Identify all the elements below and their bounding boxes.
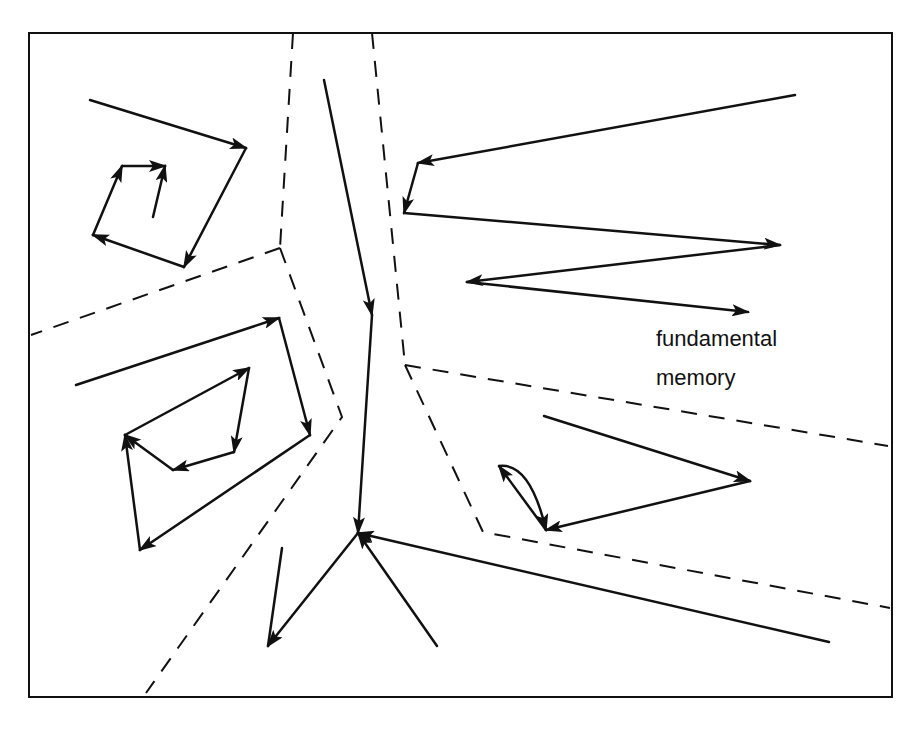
arrow-icon — [544, 416, 750, 481]
arrow-icon — [358, 315, 372, 533]
arrow-icon — [93, 166, 122, 235]
arrow-icon — [125, 435, 173, 470]
arrow-icon — [324, 80, 372, 315]
arrow-icon — [358, 533, 437, 646]
arrow-icon — [546, 481, 750, 530]
arrow-icon — [93, 235, 184, 267]
arrow-icon — [404, 213, 780, 245]
spiral-inner — [153, 166, 165, 217]
arrow-icon — [404, 163, 418, 213]
arrow-icon — [125, 435, 140, 550]
boundary-left-upper-diagonal — [31, 248, 280, 335]
boundary-right-lower — [405, 365, 890, 608]
diagram-frame — [29, 33, 892, 697]
state-trajectories — [76, 80, 829, 646]
arrow-icon — [125, 368, 249, 435]
spiral-outer — [90, 100, 246, 267]
arrow-icon — [140, 435, 310, 550]
fundamental-memory-label-line1: fundamental — [656, 326, 777, 352]
arrow-icon — [173, 452, 234, 470]
arrow-icon — [467, 282, 748, 312]
center-from-right — [358, 533, 829, 642]
arrow-icon — [234, 368, 249, 452]
fundamental-memory-label-line2: memory — [656, 365, 735, 391]
arrow-icon — [90, 100, 246, 148]
boundary-right-upper — [405, 365, 888, 446]
arrow-icon — [358, 533, 829, 642]
arrow-icon — [467, 245, 780, 282]
loop-outer — [76, 318, 310, 550]
arrow-icon — [153, 166, 165, 217]
basins-of-attraction-diagram — [0, 0, 919, 732]
basin-boundaries — [31, 33, 890, 693]
boundary-left-vertical — [280, 33, 293, 248]
zigzag-right — [404, 95, 795, 312]
boundary-center-vertical — [372, 33, 405, 365]
center-from-below — [358, 533, 437, 646]
arrow-icon — [279, 318, 310, 435]
arrow-icon — [184, 148, 246, 267]
lower-right-approach — [544, 416, 750, 530]
center-descent — [324, 80, 372, 533]
loop-inner — [125, 368, 249, 470]
arrow-icon — [418, 95, 795, 163]
